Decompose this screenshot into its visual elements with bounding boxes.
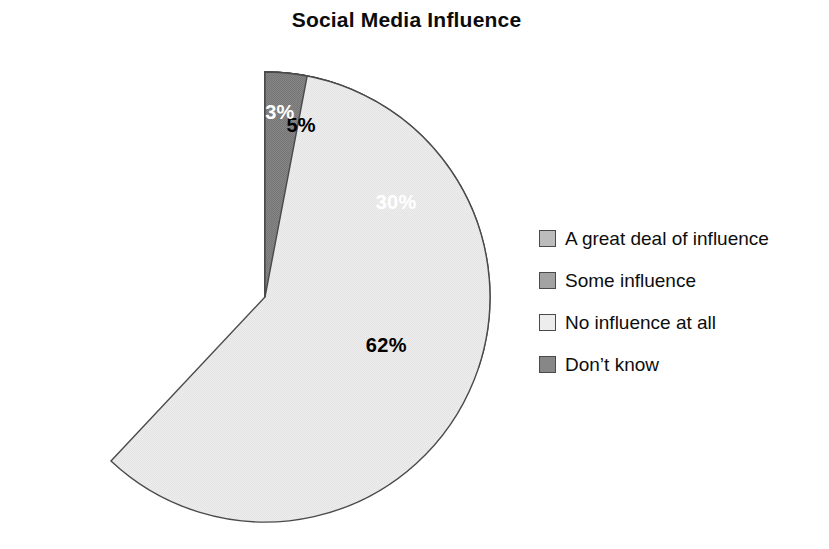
legend-item-label: A great deal of influence <box>565 229 769 249</box>
pie-slices <box>111 72 490 522</box>
legend: A great deal of influence Some influence… <box>539 222 819 390</box>
pie-slice[interactable] <box>111 72 490 522</box>
legend-item-label: Don’t know <box>565 355 659 375</box>
legend-swatch-icon <box>539 356 556 373</box>
legend-item-label: Some influence <box>565 271 696 291</box>
legend-item-label: No influence at all <box>565 313 716 333</box>
pie-slice-value-label: 30% <box>376 191 417 213</box>
legend-item-some-influence[interactable]: Some influence <box>539 264 819 297</box>
legend-item-no-influence-at-all[interactable]: No influence at all <box>539 306 819 339</box>
pie-svg: 5%30%62%3% <box>0 0 560 549</box>
pie-slice-value-label: 62% <box>366 334 407 356</box>
legend-swatch-icon <box>539 272 556 289</box>
legend-swatch-icon <box>539 230 556 247</box>
pie-slice-value-label: 3% <box>265 101 295 123</box>
legend-item-dont-know[interactable]: Don’t know <box>539 348 819 381</box>
legend-swatch-icon <box>539 314 556 331</box>
pie-plot-area: 5%30%62%3% <box>0 0 560 549</box>
legend-item-a-great-deal-of-influence[interactable]: A great deal of influence <box>539 222 819 255</box>
pie-chart-figure: Social Media Influence <box>0 0 829 549</box>
